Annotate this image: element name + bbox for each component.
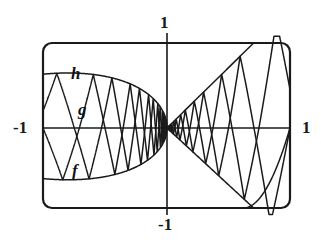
figure-root: 1 -1 1 -1 h g f [0,0,321,248]
axis-label-right: 1 [302,119,311,136]
plot-canvas [0,0,321,248]
axis-label-top: 1 [160,14,169,31]
curve-label-h: h [71,65,80,82]
axis-label-bottom: -1 [158,216,172,233]
axis-label-left: -1 [13,119,27,136]
curve-label-g: g [78,101,87,118]
curve-label-f: f [72,162,78,179]
